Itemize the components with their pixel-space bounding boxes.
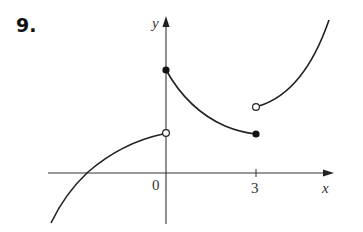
origin-label: 0 (152, 177, 160, 193)
y-axis-arrow-icon (163, 16, 170, 27)
curve-middle (166, 70, 256, 134)
open-point-x3 (253, 104, 260, 111)
open-point-x0 (163, 130, 170, 137)
curve-left (51, 134, 163, 223)
x-tick-label-3: 3 (251, 180, 259, 196)
filled-point-x3 (252, 130, 259, 137)
y-axis-label: y (150, 15, 159, 31)
x-axis-label: x (321, 180, 329, 196)
function-graph: y x 0 3 (0, 0, 363, 232)
x-axis-arrow-icon (323, 170, 334, 177)
curve-right (259, 20, 329, 106)
filled-point-x0 (162, 66, 169, 73)
